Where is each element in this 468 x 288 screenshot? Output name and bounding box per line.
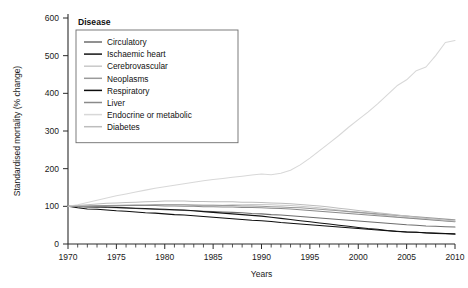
- y-tick-label: 400: [45, 88, 59, 98]
- chart-legend: DiseaseCirculatoryIschaemic heartCerebro…: [76, 17, 238, 143]
- x-axis-title: Years: [251, 269, 272, 279]
- y-tick-label: 300: [45, 126, 59, 136]
- series-line-cerebrovascular: [68, 204, 455, 221]
- chart-figure: 0100200300400500600197019751980198519901…: [0, 0, 468, 288]
- legend-label-liver: Liver: [107, 98, 125, 108]
- legend-label-diabetes: Diabetes: [107, 122, 140, 132]
- y-axis-title: Standardised mortality (% change): [12, 66, 22, 197]
- mortality-line-chart: 0100200300400500600197019751980198519901…: [0, 0, 468, 288]
- legend-label-neoplasms: Neoplasms: [107, 74, 149, 84]
- x-tick-label: 1980: [155, 252, 174, 262]
- x-tick-label: 1990: [252, 252, 271, 262]
- x-tick-label: 1985: [204, 252, 223, 262]
- x-tick-label: 2010: [446, 252, 465, 262]
- y-tick-label: 0: [54, 239, 59, 249]
- x-tick-label: 1970: [59, 252, 78, 262]
- legend-label-endocrine-or-metabolic: Endocrine or metabolic: [107, 110, 192, 120]
- legend-label-circulatory: Circulatory: [107, 37, 148, 47]
- x-tick-label: 1995: [300, 252, 319, 262]
- y-tick-label: 500: [45, 51, 59, 61]
- legend-title: Disease: [78, 17, 111, 27]
- legend-label-ischaemic-heart: Ischaemic heart: [107, 49, 166, 59]
- x-tick-label: 2005: [397, 252, 416, 262]
- y-tick-label: 600: [45, 13, 59, 23]
- x-tick-label: 2000: [349, 252, 368, 262]
- series-line-respiratory: [68, 206, 455, 234]
- x-tick-label: 1975: [107, 252, 126, 262]
- legend-label-cerebrovascular: Cerebrovascular: [107, 61, 168, 71]
- y-tick-label: 200: [45, 164, 59, 174]
- y-tick-label: 100: [45, 201, 59, 211]
- legend-label-respiratory: Respiratory: [107, 86, 150, 96]
- legend-box: [76, 30, 238, 143]
